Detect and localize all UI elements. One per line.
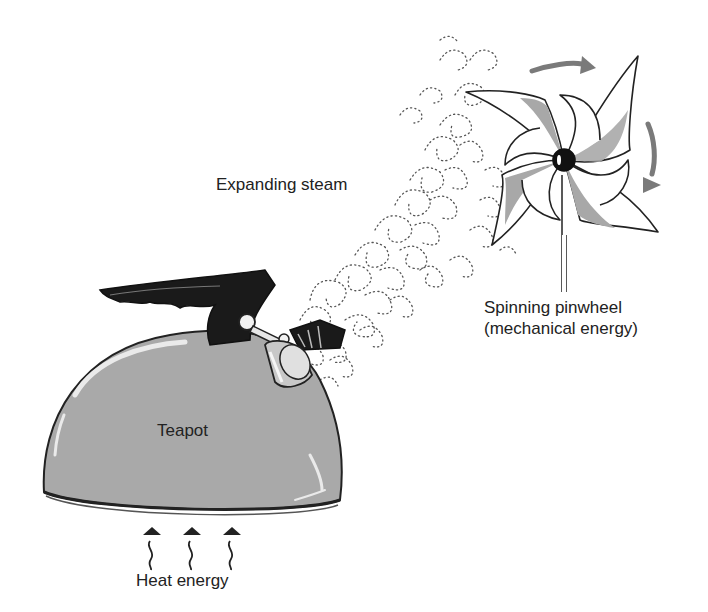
label-heat-energy: Heat energy: [136, 571, 229, 591]
label-pinwheel-line1: Spinning pinwheel: [484, 297, 638, 318]
heat-arrow-2: [183, 527, 201, 570]
label-pinwheel: Spinning pinwheel (mechanical energy): [484, 297, 638, 339]
label-expanding-steam: Expanding steam: [216, 175, 347, 195]
heat-arrows: [143, 527, 241, 570]
label-pinwheel-line2: (mechanical energy): [484, 318, 638, 339]
label-teapot: Teapot: [157, 421, 208, 441]
heat-arrow-1: [143, 527, 161, 570]
heat-arrow-3: [223, 527, 241, 570]
